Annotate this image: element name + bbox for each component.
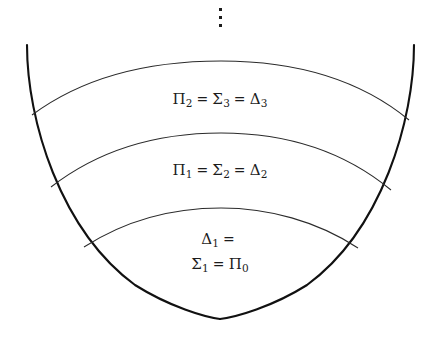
hierarchy-figure: Π2=Σ3=Δ3 Π1=Σ2=Δ2 Δ1= Σ1=Π0 <box>0 0 440 338</box>
cone-outline-left <box>27 45 220 319</box>
cone-outline-right <box>220 45 414 319</box>
band-divider-arc-middle <box>51 133 391 190</box>
hierarchy-diagram-svg <box>0 0 440 338</box>
band-divider-arc-bottom <box>84 208 358 248</box>
band-divider-arc-top <box>32 61 409 120</box>
